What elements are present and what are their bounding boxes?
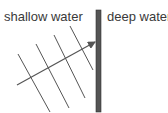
wavefront-lines: [18, 26, 93, 112]
wavefront-line: [36, 44, 69, 108]
water-boundary-bar: [96, 10, 101, 112]
ray-arrow: [17, 42, 95, 85]
refraction-diagram: [0, 0, 168, 113]
wavefront-line: [70, 26, 93, 70]
